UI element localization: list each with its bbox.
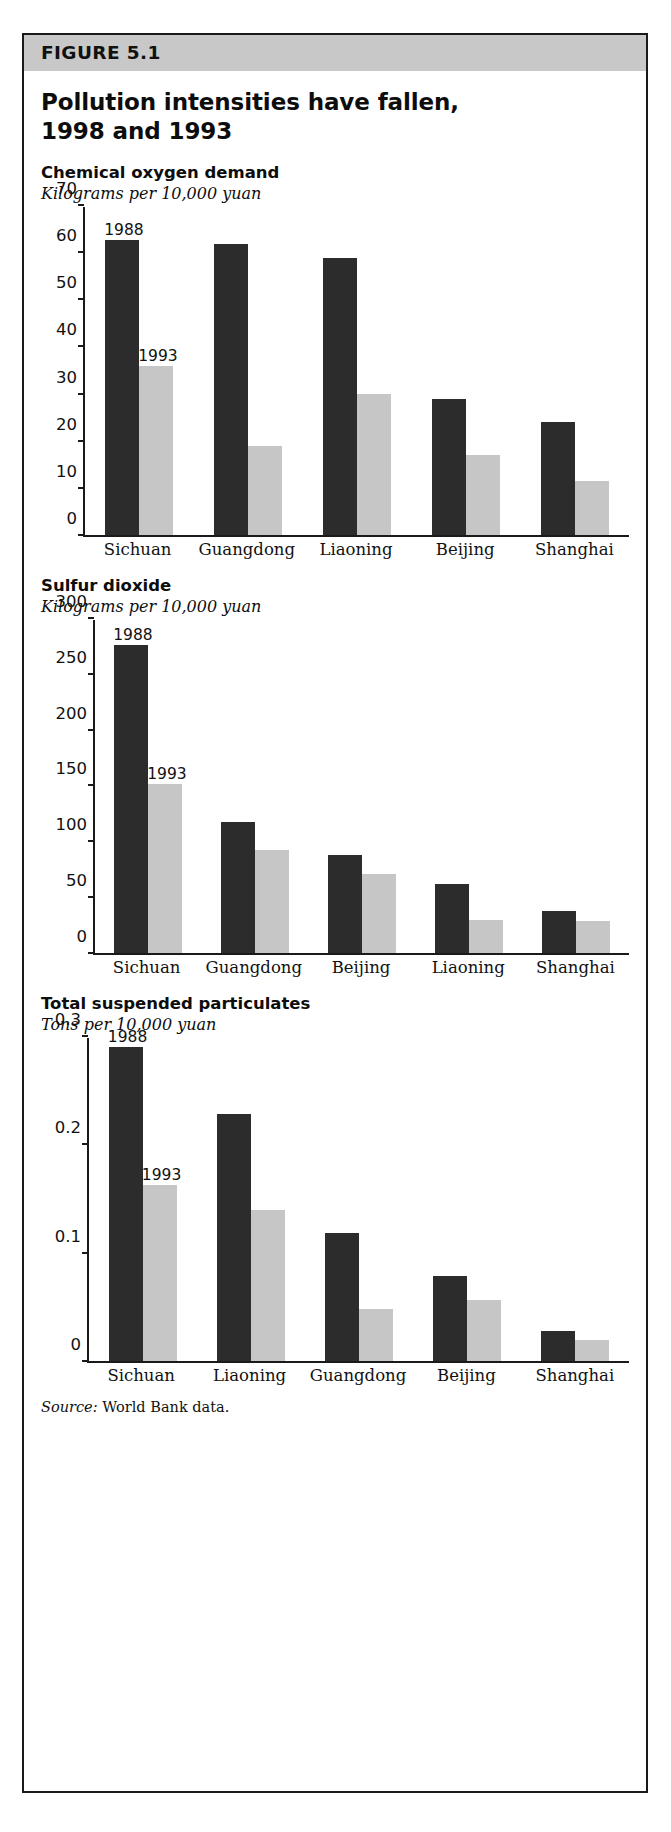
bar-1988 [221,822,255,953]
y-axis-tick-mark [88,673,94,675]
x-axis-tick-label: Guangdong [192,540,301,559]
bar-1993 [362,874,396,953]
source-text: World Bank data. [102,1399,229,1415]
bars-container: 19881993 [89,1038,629,1361]
figure-number-band: FIGURE 5.1 [24,35,646,71]
y-axis-tick-label: 30 [56,367,77,386]
bar-1993: 1993 [148,784,182,953]
x-axis-tick-label: Liaoning [301,540,410,559]
bar-1993 [575,481,609,535]
bar-group [413,1038,521,1361]
bar-group: 19881993 [85,207,194,535]
y-axis-tick-mark [82,1035,88,1037]
y-axis-tick-label: 40 [56,320,77,339]
y-axis-tick-label: 0 [77,926,88,945]
x-axis-tick-label: Beijing [307,958,414,977]
y-axis-tick-label: 50 [66,871,87,890]
y-axis-tick-mark [78,298,84,300]
panel-title: Total suspended particulates [41,994,629,1013]
y-axis-tick-mark [78,534,84,536]
x-axis-tick-label: Shanghai [521,1366,629,1385]
y-axis-tick-mark [88,952,94,954]
y-axis-tick-label: 60 [56,226,77,245]
bar-1993 [251,1210,285,1361]
y-axis-tick-mark [88,840,94,842]
chart-plot-area: 19881993 010203040506070 [41,207,629,537]
y-axis-tick-mark [82,1360,88,1362]
x-labels-wrap: SichuanGuangdongLiaoningBeijingShanghai [41,540,629,559]
x-axis-tick-label: Sichuan [83,540,192,559]
y-axis-tick-mark [88,784,94,786]
bar-group [194,207,303,535]
y-axis-tick-label: 300 [56,591,88,610]
series-annotation-1993: 1993 [147,765,186,783]
y-axis-tick-label: 0.1 [55,1226,81,1245]
y-axis-tick-label: 0 [67,508,78,527]
x-axis [87,1361,629,1363]
x-axis [83,535,629,537]
bar-1988 [325,1233,359,1361]
bar-1988: 1988 [114,645,148,952]
bar-group [202,620,309,953]
x-axis-tick-label: Sichuan [93,958,200,977]
series-annotation-1988: 1988 [104,221,143,239]
x-labels-wrap: SichuanGuangdongBeijingLiaoningShanghai [41,958,629,977]
y-axis-tick-mark [78,487,84,489]
bar-1988 [541,422,575,534]
y-axis-tick-label: 200 [56,703,88,722]
y-axis-tick-label: 250 [56,647,88,666]
figure-frame: FIGURE 5.1 Pollution intensities have fa… [22,33,648,1793]
bar-1993 [255,850,289,953]
y-axis-tick-mark [78,204,84,206]
bar-1988 [435,884,469,953]
y-axis-tick-mark [78,345,84,347]
bars-container: 19881993 [85,207,629,535]
x-axis-tick-label: Sichuan [87,1366,195,1385]
bar-group [522,620,629,953]
bar-1988 [433,1276,467,1361]
x-axis [93,953,629,955]
y-axis-tick-mark [78,393,84,395]
bar-group [521,1038,629,1361]
bar-group [305,1038,413,1361]
x-axis-tick-label: Beijing [411,540,520,559]
bar-1988 [328,855,362,953]
panel-title: Sulfur dioxide [41,576,629,595]
bar-1993: 1993 [139,366,173,535]
series-annotation-1988: 1988 [108,1028,147,1046]
y-axis-tick-label: 0.2 [55,1118,81,1137]
bar-group [309,620,416,953]
bar-1988 [432,399,466,535]
figure-title: Pollution intensities have fallen, 1998 … [41,88,521,146]
bar-group [197,1038,305,1361]
y-axis-tick-label: 150 [56,759,88,778]
y-axis-tick-mark [78,251,84,253]
bar-1988 [217,1114,251,1361]
bar-1993 [575,1340,609,1360]
y-axis-tick-label: 10 [56,461,77,480]
panel-chemical-oxygen-demand: Chemical oxygen demand Kilograms per 10,… [41,163,629,559]
x-axis-labels: SichuanLiaoningGuangdongBeijingShanghai [87,1366,629,1385]
series-annotation-1993: 1993 [142,1166,181,1184]
x-axis-tick-label: Guangdong [200,958,307,977]
y-axis-tick-label: 70 [56,178,77,197]
bar-1988 [541,1331,575,1361]
bar-1988 [214,244,248,535]
y-axis-tick-label: 0 [71,1334,82,1353]
panel-units: Kilograms per 10,000 yuan [41,184,629,203]
y-axis-tick-mark [88,617,94,619]
bar-1993 [359,1309,393,1361]
x-axis-tick-label: Liaoning [415,958,522,977]
figure-number-label: FIGURE 5.1 [41,42,161,63]
series-annotation-1988: 1988 [113,626,152,644]
series-annotation-1993: 1993 [138,347,177,365]
figure-body: Pollution intensities have fallen, 1998 … [24,88,646,1415]
bars-container: 19881993 [95,620,629,953]
source-prefix: Source: [41,1399,98,1415]
x-axis-tick-label: Shanghai [522,958,629,977]
bar-group [303,207,412,535]
bar-1993 [357,394,391,535]
bar-group [520,207,629,535]
y-axis-tick-mark [82,1252,88,1254]
x-axis-tick-label: Liaoning [195,1366,303,1385]
